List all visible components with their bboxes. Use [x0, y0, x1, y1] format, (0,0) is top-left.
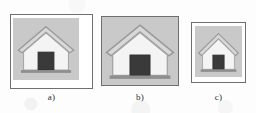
figure-container: a) b) [0, 0, 256, 113]
figure-panel-c [191, 22, 246, 83]
panel-b-caption: b) [101, 92, 179, 103]
panel-a-image [13, 18, 79, 80]
panel-c-image [195, 26, 242, 77]
figure-panel-a [10, 14, 93, 89]
panel-b-frame [101, 16, 179, 86]
figure-panel-b [101, 16, 179, 86]
panel-b-image [102, 17, 178, 85]
house-icon [102, 17, 178, 85]
panel-a-caption: a) [10, 92, 93, 103]
panel-c-caption: c) [191, 92, 246, 103]
house-icon [13, 18, 79, 80]
panel-a-frame [10, 14, 93, 89]
panel-c-frame [191, 22, 246, 83]
house-icon [195, 26, 242, 77]
